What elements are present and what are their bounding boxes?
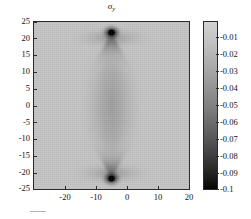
colorbar-tick-label-neg002: -0.02 (220, 50, 238, 59)
ytick-label-neg25: -25 (5, 184, 30, 193)
colorbar-tick-mark-neg001 (216, 37, 219, 38)
xtick-mark-20 (189, 186, 190, 189)
ytick-mark-25 (34, 22, 37, 23)
ytick-label-10: 10 (8, 67, 30, 76)
ytick-mark-5 (34, 89, 37, 90)
ytick-label-neg5: -5 (5, 118, 30, 127)
colorbar-tick-label-neg009: -0.09 (220, 169, 238, 178)
ytick-label-5: 5 (8, 84, 30, 93)
colorbar-tick-label-neg01: -0.1 (220, 185, 233, 194)
ytick-mark-0 (34, 106, 37, 107)
xtick-mark-neg10 (96, 186, 97, 189)
colorbar-tick-mark-neg006 (216, 122, 219, 123)
xtick-mark-neg20 (65, 186, 66, 189)
ytick-label-neg15: -15 (5, 151, 30, 160)
ytick-mark-neg25 (34, 189, 37, 190)
ytick-mark-20 (34, 38, 37, 39)
colorbar-tick-mark-neg005 (216, 105, 219, 106)
ytick-mark-15 (34, 55, 37, 56)
colorbar-tick-label-neg008: -0.08 (220, 152, 238, 161)
colorbar-tick-label-neg005: -0.05 (220, 101, 238, 110)
ytick-label-15: 15 (8, 50, 30, 59)
colorbar-tick-label-neg006: -0.06 (220, 118, 238, 127)
ytick-mark-10 (34, 72, 37, 73)
xtick-mark-0 (127, 186, 128, 189)
ytick-label-neg20: -20 (5, 168, 30, 177)
ytick-label-neg10: -10 (5, 134, 30, 143)
colorbar-tick-mark-neg009 (216, 173, 219, 174)
xtick-label-neg10: -10 (83, 193, 109, 202)
colorbar-tick-mark-neg004 (216, 88, 219, 89)
ytick-mark-neg5 (34, 122, 37, 123)
colorbar-tick-mark-neg007 (216, 139, 219, 140)
figure-container: σy (0, 0, 251, 219)
xtick-label-neg20: -20 (52, 193, 78, 202)
colorbar-tick-label-neg007: -0.07 (220, 135, 238, 144)
heatmap-image (34, 22, 189, 189)
colorbar-tick-label-neg004: -0.04 (220, 84, 238, 93)
xtick-label-20: 20 (176, 193, 202, 202)
colorbar-tick-mark-neg003 (216, 71, 219, 72)
heatmap-axes (33, 21, 190, 190)
ytick-label-20: 20 (8, 34, 30, 43)
xtick-label-10: 10 (145, 193, 171, 202)
page-scan-artifact (30, 211, 46, 212)
ytick-mark-neg10 (34, 139, 37, 140)
ytick-mark-neg20 (34, 173, 37, 174)
ytick-label-25: 25 (8, 17, 30, 26)
colorbar-tick-mark-neg002 (216, 54, 219, 55)
colorbar-tick-mark-neg01 (216, 189, 219, 190)
ytick-label-0: 0 (8, 101, 30, 110)
colorbar-tick-label-neg003: -0.03 (220, 67, 238, 76)
colorbar-tick-mark-neg008 (216, 156, 219, 157)
ytick-mark-neg15 (34, 156, 37, 157)
plot-title: σy (0, 1, 223, 14)
xtick-label-0: 0 (114, 193, 140, 202)
xtick-mark-10 (158, 186, 159, 189)
colorbar-tick-label-neg001: -0.01 (220, 33, 238, 42)
plot-title-subscript: y (112, 5, 115, 12)
